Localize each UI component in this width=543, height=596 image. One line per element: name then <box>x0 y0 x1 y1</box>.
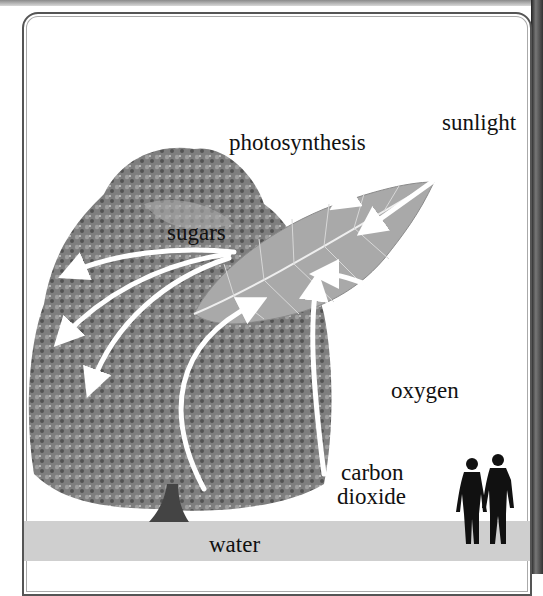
label-sunlight: sunlight <box>442 112 516 134</box>
label-sugars: sugars <box>167 222 226 244</box>
label-carbon: carbon <box>341 462 404 484</box>
diagram-card: sunlight photosynthesis sugars oxygen ca… <box>22 12 532 596</box>
label-dioxide: dioxide <box>337 486 406 508</box>
tree-icon <box>29 148 332 522</box>
people-silhouette-icon <box>456 454 514 544</box>
right-frame-strip <box>531 0 543 574</box>
top-frame-strip <box>0 0 543 6</box>
diagram-illustration <box>24 14 530 574</box>
label-oxygen: oxygen <box>391 380 459 402</box>
label-photosynthesis: photosynthesis <box>229 132 366 154</box>
label-water: water <box>209 534 260 556</box>
